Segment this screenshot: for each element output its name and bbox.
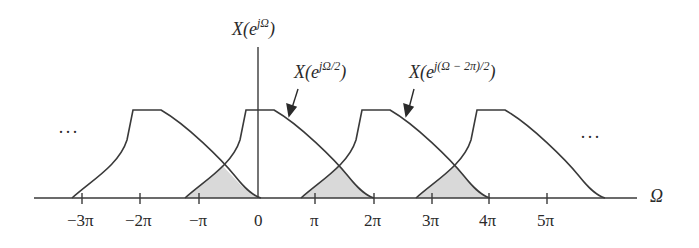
tick-label-5pi: 5π [537,211,554,231]
alias-region-1 [185,165,258,198]
tick-label-minus-pi: −π [189,211,207,231]
arrow-2-shaft [409,89,414,108]
ellipsis-right: ··· [580,127,601,148]
annotation-label-2: X(ej(Ω − 2π)/2) [409,59,495,83]
arrow-1-shaft [292,89,298,108]
ellipsis-left: ··· [58,122,79,143]
spectrum-diagram: X(ejΩ) X(ejΩ/2) X(ej(Ω − 2π)/2) Ω −3π −2… [0,0,699,248]
tick-label-zero: 0 [254,211,263,231]
tick-label-3pi: 3π [422,211,439,231]
horizontal-axis-label: Ω [650,186,663,207]
vertical-axis-label: X(ejΩ) [232,16,275,40]
spectrum-plot [0,0,699,248]
annotation-arrows [287,89,414,116]
tick-label-2pi: 2π [364,211,381,231]
tick-label-minus-2pi: −2π [125,211,152,231]
tick-label-4pi: 4π [479,211,496,231]
tick-label-pi: π [310,211,319,231]
alias-region-3 [417,165,490,198]
arrow-2-head-icon [404,104,413,116]
alias-region-2 [301,165,374,198]
annotation-label-1: X(ejΩ/2) [294,59,346,83]
arrow-1-head-icon [287,104,296,116]
tick-label-minus-3pi: −3π [67,211,94,231]
